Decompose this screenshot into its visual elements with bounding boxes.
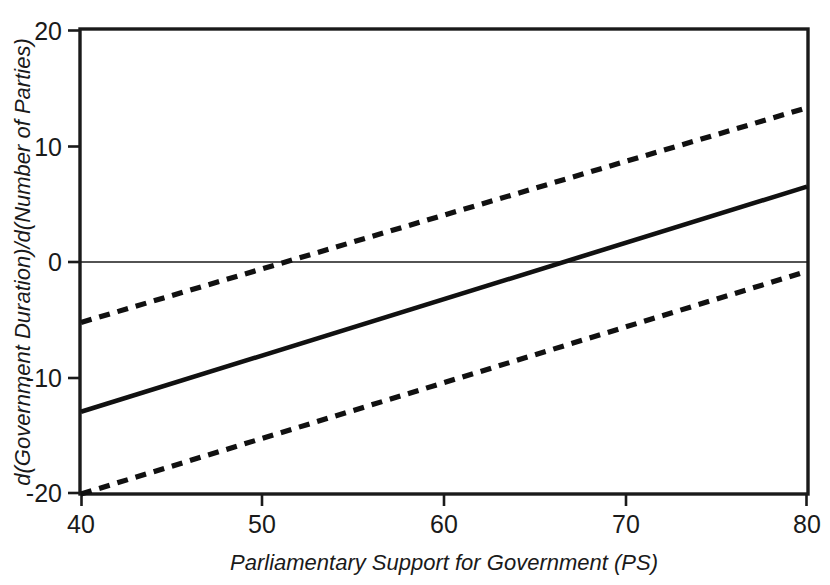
- x-tick-label-50: 50: [248, 510, 276, 538]
- x-axis-tick-labels: 40 50 60 70 80: [67, 510, 821, 538]
- y-axis-title: d(Government Duration)/d(Number of Parti…: [10, 38, 35, 486]
- marginal-effect-plot-figure: 20 10 0 -10 -20 40 50 60 70 80 Parliamen…: [0, 0, 830, 585]
- y-tick-label-0: 0: [48, 248, 62, 276]
- x-axis-title: Parliamentary Support for Government (PS…: [230, 550, 658, 575]
- x-axis-ticks: [82, 494, 807, 506]
- y-tick-label-10: 10: [34, 133, 62, 161]
- y-tick-label-20: 20: [34, 17, 62, 45]
- y-axis-ticks: [68, 31, 80, 494]
- x-tick-label-70: 70: [612, 510, 640, 538]
- x-tick-label-40: 40: [67, 510, 95, 538]
- chart-canvas: 20 10 0 -10 -20 40 50 60 70 80 Parliamen…: [0, 0, 830, 585]
- x-tick-label-60: 60: [430, 510, 458, 538]
- x-tick-label-80: 80: [793, 510, 821, 538]
